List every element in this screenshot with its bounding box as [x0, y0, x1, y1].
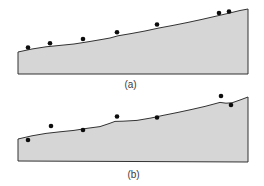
panel-b [18, 94, 248, 162]
data-point [229, 103, 234, 108]
panel-a [18, 9, 248, 74]
panel-label-a: (a) [124, 79, 136, 90]
diagram-canvas: (a) (b) [0, 0, 264, 186]
figure: (a) (b) [0, 0, 264, 186]
data-point [115, 114, 120, 119]
shaded-region [18, 97, 248, 162]
data-point [26, 138, 31, 143]
data-point [219, 94, 224, 99]
data-point [81, 128, 86, 133]
data-point [155, 22, 160, 27]
data-point [26, 45, 31, 50]
data-point [49, 124, 54, 129]
data-point [227, 9, 232, 14]
data-point [155, 115, 160, 120]
panel-label-b: (b) [127, 169, 139, 180]
data-point [81, 37, 86, 42]
data-point [115, 30, 120, 35]
data-point [217, 11, 222, 16]
shaded-region [18, 9, 248, 74]
data-point [48, 41, 53, 46]
